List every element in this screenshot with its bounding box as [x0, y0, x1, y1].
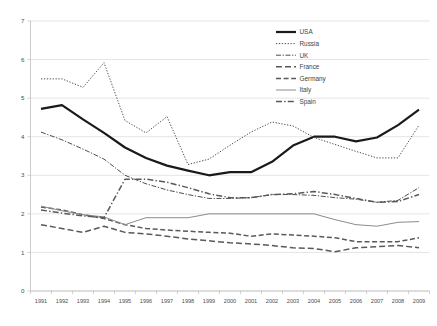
gridlines-group	[31, 21, 430, 291]
line-chart-figure: 01234567 1991199219931994199519961997199…	[0, 0, 437, 326]
x-tick-label: 1995	[119, 298, 131, 304]
series-line-russia	[41, 63, 419, 165]
legend-label-france: France	[300, 63, 320, 70]
x-tick-label: 2006	[350, 298, 362, 304]
x-tick-label: 1999	[203, 298, 215, 304]
x-tick-label: 2009	[413, 298, 425, 304]
y-tick-label: 1	[21, 249, 25, 256]
x-tick-label: 1993	[77, 298, 89, 304]
x-tick-label: 1997	[161, 298, 173, 304]
y-tick-label: 6	[21, 56, 25, 63]
y-tick-label: 3	[21, 171, 25, 178]
x-tick-label: 2004	[308, 298, 320, 304]
y-tick-label: 2	[21, 210, 25, 217]
legend-label-uk: UK	[300, 52, 310, 59]
x-tick-label: 1991	[35, 298, 47, 304]
axes-group	[31, 21, 430, 291]
x-tick-label: 2003	[287, 298, 299, 304]
y-tick-label: 0	[21, 287, 25, 294]
data-series-group	[41, 63, 419, 252]
x-tick-label: 1998	[182, 298, 194, 304]
x-tick-label: 1992	[56, 298, 68, 304]
x-tick-label: 2001	[245, 298, 257, 304]
y-tick-label: 4	[21, 133, 25, 140]
legend-label-germany: Germany	[300, 75, 327, 83]
x-tick-label: 2002	[266, 298, 278, 304]
legend-label-italy: Italy	[300, 86, 313, 94]
y-tick-label: 5	[21, 94, 25, 101]
x-tick-label: 1996	[140, 298, 152, 304]
x-tick-label: 2005	[329, 298, 341, 304]
x-tick-label: 2008	[392, 298, 404, 304]
y-axis-tick-labels: 01234567	[21, 17, 30, 294]
series-line-uk	[41, 132, 419, 202]
x-tick-label: 2000	[224, 298, 236, 304]
series-line-usa	[41, 105, 419, 175]
legend-label-spain: Spain	[300, 98, 317, 106]
series-line-france	[41, 225, 419, 252]
series-line-germany	[41, 207, 419, 242]
chart-legend: USARussiaUKFranceGermanyItalySpain	[276, 28, 327, 106]
x-axis-tick-labels: 1991199219931994199519961997199819992000…	[31, 291, 430, 304]
x-tick-label: 2007	[371, 298, 383, 304]
legend-label-russia: Russia	[300, 40, 320, 47]
legend-label-usa: USA	[300, 28, 314, 35]
y-tick-label: 7	[21, 17, 25, 24]
x-tick-label: 1994	[98, 298, 110, 304]
chart-canvas: 01234567 1991199219931994199519961997199…	[0, 0, 437, 326]
series-line-italy	[41, 206, 419, 226]
